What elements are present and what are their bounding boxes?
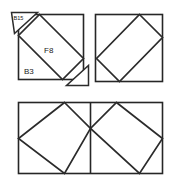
label-b15: B15 [14, 15, 24, 21]
diagram-canvas: B15 F8 B3 [0, 0, 171, 191]
label-b3: B3 [24, 67, 34, 76]
label-f8: F8 [44, 46, 54, 55]
panel-bottom [19, 103, 163, 174]
panel-top-left: B15 F8 B3 [12, 13, 89, 86]
quilt-block-diagram: B15 F8 B3 [0, 0, 171, 191]
panel-top-right [96, 15, 163, 82]
